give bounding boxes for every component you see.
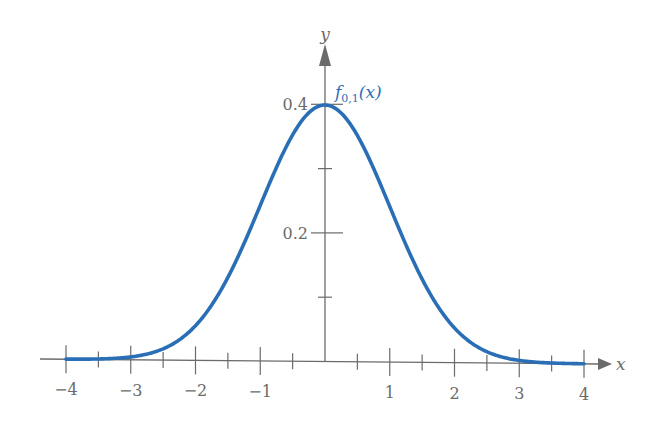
axes — [40, 44, 612, 370]
x-axis-arrow-icon — [598, 358, 612, 370]
x-tick-label: 1 — [385, 383, 395, 402]
labels: −4−3−2−112340.20.4xyf0,1(x) — [54, 24, 626, 404]
x-tick-label: −3 — [119, 381, 143, 400]
y-axis-label: y — [319, 24, 330, 44]
curve-label: f0,1(x) — [333, 82, 382, 105]
x-tick-label: 4 — [579, 385, 589, 404]
y-axis-arrow-icon — [319, 44, 331, 66]
y-tick-label: 0.2 — [283, 224, 308, 243]
x-tick-label: −4 — [54, 380, 78, 399]
x-tick-label: −1 — [248, 382, 272, 401]
y-tick-label: 0.4 — [283, 95, 308, 114]
x-tick-label: −2 — [184, 381, 208, 400]
x-tick-label: 3 — [514, 384, 524, 403]
x-axis-label: x — [616, 354, 626, 374]
normal-distribution-chart: −4−3−2−112340.20.4xyf0,1(x) — [0, 0, 657, 423]
x-tick-label: 2 — [449, 384, 459, 403]
